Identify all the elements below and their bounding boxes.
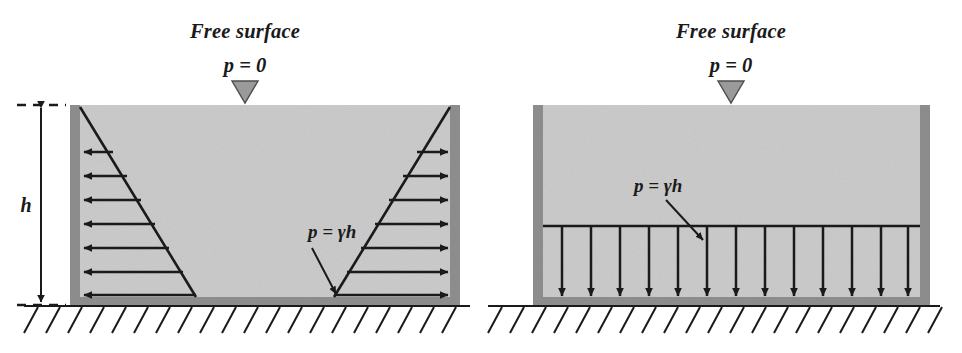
hatch-line xyxy=(664,307,678,333)
hatch-line xyxy=(288,307,302,333)
hatch-line xyxy=(222,307,236,333)
base-pressure-label-left: p = γh xyxy=(306,221,356,242)
figure-canvas: Free surface p = 0 xyxy=(0,0,962,353)
tank-wall-left-right-panel xyxy=(533,105,543,305)
tank-base-left xyxy=(70,297,460,305)
free-surface-triangle-marker-right xyxy=(718,81,744,103)
fluid-body-left xyxy=(70,105,460,305)
left-panel: Free surface p = 0 xyxy=(17,20,470,333)
free-surface-triangle-marker-left xyxy=(232,81,258,103)
hatch-line xyxy=(642,307,656,333)
hatch-line xyxy=(686,307,700,333)
hatch-line xyxy=(46,307,60,333)
hatch-line xyxy=(68,307,82,333)
hatch-line xyxy=(576,307,590,333)
hatch-line xyxy=(244,307,258,333)
hatch-line xyxy=(532,307,546,333)
hatch-line xyxy=(112,307,126,333)
hatch-line xyxy=(354,307,368,333)
hatch-line xyxy=(796,307,810,333)
hatch-line xyxy=(708,307,722,333)
hydrostatic-pressure-figure: Free surface p = 0 xyxy=(0,0,962,353)
surface-pressure-label-left: p = 0 xyxy=(222,54,266,77)
depth-label-h: h xyxy=(20,194,31,216)
hatch-line xyxy=(90,307,104,333)
hatch-line xyxy=(620,307,634,333)
ground-hatching-right xyxy=(488,306,942,333)
right-panel: Free surface p = 0 xyxy=(488,20,942,333)
tank-base-right xyxy=(533,297,930,305)
tank-wall-right xyxy=(450,105,460,305)
surface-pressure-label-right: p = 0 xyxy=(708,54,752,77)
hatch-line xyxy=(818,307,832,333)
hatch-line xyxy=(266,307,280,333)
hatch-line xyxy=(730,307,744,333)
depth-dimension-left: h xyxy=(17,105,66,305)
free-surface-label-left: Free surface xyxy=(189,20,300,43)
hatch-line xyxy=(398,307,412,333)
tank-wall-left xyxy=(70,105,80,305)
hatch-line xyxy=(332,307,346,333)
hatch-line xyxy=(178,307,192,333)
hatch-line xyxy=(510,307,524,333)
hatch-line xyxy=(420,307,434,333)
free-surface-label-right: Free surface xyxy=(675,20,786,43)
hatch-line xyxy=(554,307,568,333)
hatch-line xyxy=(376,307,390,333)
hatch-line xyxy=(598,307,612,333)
fluid-body-right xyxy=(533,105,930,305)
hatch-line xyxy=(774,307,788,333)
hatch-line xyxy=(906,307,920,333)
hatch-line xyxy=(840,307,854,333)
hatch-line xyxy=(134,307,148,333)
hatch-line xyxy=(200,307,214,333)
hatch-line xyxy=(156,307,170,333)
hatch-line xyxy=(488,307,502,333)
hatch-line xyxy=(928,307,942,333)
tank-wall-right-right-panel xyxy=(920,105,930,305)
hatch-line xyxy=(752,307,766,333)
hatch-line xyxy=(442,307,456,333)
base-pressure-label-right: p = γh xyxy=(632,175,682,196)
hatch-line xyxy=(862,307,876,333)
ground-hatching-left xyxy=(24,306,470,333)
hatch-line xyxy=(24,307,38,333)
hatch-line xyxy=(884,307,898,333)
hatch-line xyxy=(310,307,324,333)
